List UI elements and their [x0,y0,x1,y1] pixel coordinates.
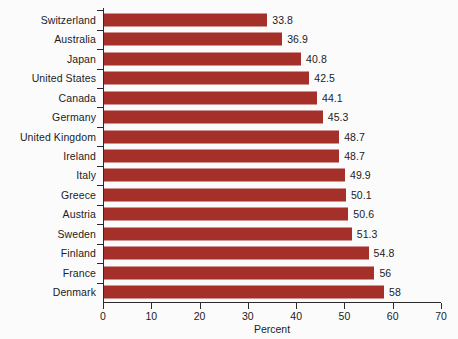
bar-row: Australia36.9 [0,29,458,48]
bar-row: Italy49.9 [0,166,458,185]
bar [104,111,323,124]
category-label: Japan [67,53,96,65]
bar-value-label: 48.7 [344,131,365,143]
bar-row: France56 [0,263,458,282]
category-label: Austria [63,208,96,220]
bar-row: Japan40.8 [0,49,458,68]
x-axis-tick [151,303,152,309]
x-axis-line [103,302,441,303]
x-axis-tick-label: 0 [100,310,106,322]
bar-value-label: 40.8 [306,53,327,65]
bar-row: United States42.5 [0,68,458,87]
x-axis-tick-label: 70 [435,310,447,322]
bar-value-label: 36.9 [287,33,308,45]
category-label: Finland [61,247,96,259]
x-axis-tick-label: 40 [290,310,302,322]
x-axis-tick-label: 60 [387,310,399,322]
x-axis-tick-label: 50 [339,310,351,322]
bar [104,52,301,65]
x-axis-title: Percent [103,323,441,335]
category-label: Canada [59,92,96,104]
bar-value-label: 48.7 [344,150,365,162]
bar [104,169,345,182]
bar-value-label: 42.5 [314,72,335,84]
bar [104,91,317,104]
bar-value-label: 33.8 [272,14,293,26]
bar-value-label: 44.1 [322,92,343,104]
bar-rows: Switzerland33.8Australia36.9Japan40.8Uni… [0,0,458,302]
bar-row: Germany45.3 [0,107,458,126]
category-label: Greece [61,189,96,201]
x-axis-tick-label: 30 [242,310,254,322]
category-label: Ireland [63,150,96,162]
category-label: Australia [54,33,96,45]
y-axis-line [103,8,104,303]
bar-chart: Switzerland33.8Australia36.9Japan40.8Uni… [0,0,458,339]
bar-row: Austria50.6 [0,205,458,224]
x-axis-tick-label: 10 [145,310,157,322]
bar [104,13,267,26]
bar-row: Canada44.1 [0,88,458,107]
bar [104,188,346,201]
x-axis-tick [248,303,249,309]
bar [104,33,282,46]
bar-value-label: 50.1 [351,189,372,201]
x-axis-tick [344,303,345,309]
category-label: United States [32,72,96,84]
x-axis-tick-label: 20 [194,310,206,322]
bar-value-label: 49.9 [350,169,371,181]
bar [104,227,352,240]
x-axis-tick [296,303,297,309]
bar-row: Finland54.8 [0,244,458,263]
category-label: Germany [52,111,96,123]
bar-row: United Kingdom48.7 [0,127,458,146]
bar [104,286,384,299]
category-label: United Kingdom [20,131,96,143]
bar-row: Denmark58 [0,283,458,302]
bar-row: Ireland48.7 [0,146,458,165]
x-axis-tick [441,303,442,309]
bar-value-label: 50.6 [353,208,374,220]
category-label: Switzerland [41,14,96,26]
bar [104,208,348,221]
x-axis-tick [103,303,104,309]
category-label: Denmark [53,286,96,298]
x-axis-tick [393,303,394,309]
bar-value-label: 56 [379,267,391,279]
bar-value-label: 45.3 [328,111,349,123]
plot-area: Switzerland33.8Australia36.9Japan40.8Uni… [0,0,458,339]
bar [104,266,374,279]
bar [104,247,369,260]
category-label: Sweden [57,228,96,240]
category-label: France [63,267,96,279]
bar-value-label: 58 [389,286,401,298]
bar-value-label: 51.3 [357,228,378,240]
bar [104,72,309,85]
category-label: Italy [76,169,96,181]
bar-row: Sweden51.3 [0,224,458,243]
bar [104,149,339,162]
bar-value-label: 54.8 [374,247,395,259]
bar [104,130,339,143]
bar-row: Switzerland33.8 [0,10,458,29]
bar-row: Greece50.1 [0,185,458,204]
x-axis-tick [200,303,201,309]
